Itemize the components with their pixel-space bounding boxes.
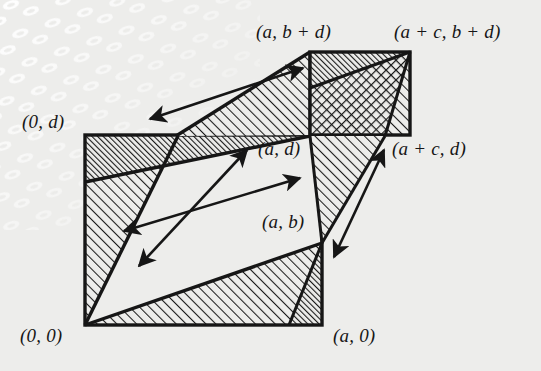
label-aplusc-d: (a + c, d) [392, 139, 466, 158]
label-0-0: (0, 0) [20, 326, 62, 345]
label-aplusc-bplusd: (a + c, b + d) [394, 22, 501, 41]
label-a-b: (a, b) [262, 212, 304, 231]
label-a-bplusd: (a, b + d) [256, 22, 331, 41]
figure-root: (a, b + d) (a + c, b + d) (0, d) (a, d) … [0, 0, 541, 371]
label-a-d: (a, d) [258, 139, 300, 158]
upper-square-group [310, 52, 410, 136]
label-a-0: (a, 0) [333, 326, 375, 345]
geometry-diagram [0, 0, 541, 371]
label-0-d: (0, d) [22, 112, 64, 131]
